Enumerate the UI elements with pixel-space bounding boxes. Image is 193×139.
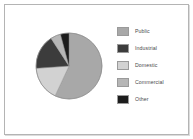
legend-swatch-industrial — [117, 44, 129, 53]
legend-item-commercial: Commercial — [117, 74, 183, 90]
legend-item-other: Other — [117, 91, 183, 107]
legend-item-public: Public — [117, 23, 183, 39]
legend-label-public: Public — [135, 28, 150, 35]
legend-swatch-domestic — [117, 61, 129, 70]
pie-svg — [35, 32, 103, 100]
plot-area: Public Industrial Domestic Commercial Ot… — [9, 9, 184, 130]
legend-item-domestic: Domestic — [117, 57, 183, 73]
legend-label-commercial: Commercial — [135, 79, 164, 86]
legend-swatch-public — [117, 27, 129, 36]
legend-label-industrial: Industrial — [135, 45, 157, 52]
chart-legend: Public Industrial Domestic Commercial Ot… — [117, 23, 183, 108]
pie-graphic — [35, 32, 103, 100]
legend-label-domestic: Domestic — [135, 62, 157, 69]
legend-label-other: Other — [135, 96, 148, 103]
legend-swatch-commercial — [117, 78, 129, 87]
legend-swatch-other — [117, 95, 129, 104]
legend-item-industrial: Industrial — [117, 40, 183, 56]
pie-chart-figure: Public Industrial Domestic Commercial Ot… — [0, 0, 193, 139]
